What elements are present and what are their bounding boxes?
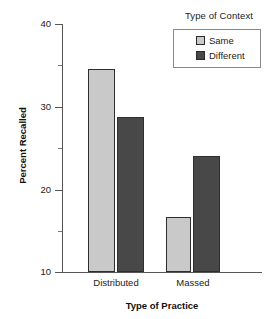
y-tick-30 bbox=[55, 107, 62, 108]
y-minor-tick-15 bbox=[58, 231, 62, 232]
y-minor-tick-25 bbox=[58, 148, 62, 149]
y-axis-line bbox=[62, 24, 63, 273]
y-tick-20 bbox=[55, 190, 62, 191]
y-tick-40 bbox=[55, 24, 62, 25]
bar-massed-same bbox=[166, 217, 191, 272]
legend-item-same: Same bbox=[196, 35, 234, 46]
legend-swatch-same bbox=[196, 36, 205, 45]
x-tick-label-distributed: Distributed bbox=[76, 277, 156, 288]
legend-label-different: Different bbox=[209, 50, 245, 61]
bar-distributed-different bbox=[117, 117, 144, 272]
y-tick-label-10: 10 bbox=[21, 266, 51, 277]
bar-massed-different bbox=[193, 156, 220, 272]
y-minor-tick-35 bbox=[58, 65, 62, 66]
x-axis-title: Type of Practice bbox=[62, 300, 262, 311]
legend-item-different: Different bbox=[196, 50, 245, 61]
legend-box: Same Different bbox=[173, 29, 261, 68]
y-axis-title: Percent Recalled bbox=[17, 96, 28, 196]
x-axis-line bbox=[62, 272, 262, 273]
x-tick-label-massed: Massed bbox=[153, 277, 233, 288]
y-tick-label-40: 40 bbox=[21, 18, 51, 29]
legend-swatch-different bbox=[196, 51, 205, 60]
legend-title: Type of Context bbox=[173, 10, 265, 21]
legend-label-same: Same bbox=[209, 35, 234, 46]
bar-distributed-same bbox=[88, 69, 115, 272]
bar-chart: Type of Context Same Different 40 30 20 … bbox=[0, 0, 272, 319]
y-tick-10 bbox=[55, 272, 62, 273]
